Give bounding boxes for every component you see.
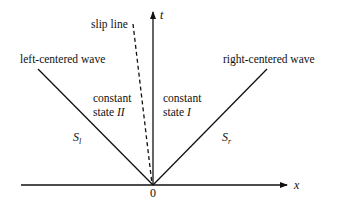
slip-line-label: slip line xyxy=(91,18,128,31)
S-l-label: Sl xyxy=(73,130,82,146)
left-wave-label: left-centered wave xyxy=(20,53,105,65)
state-I-line2: state I xyxy=(163,106,192,118)
state-I-line1: constant xyxy=(163,92,202,104)
S-r-label: Sr xyxy=(222,130,232,146)
left-wave-line xyxy=(38,69,153,185)
xt-diagram: t x 0 slip line left-centered wave right… xyxy=(0,0,340,208)
slip-line xyxy=(133,24,152,184)
t-axis-label: t xyxy=(160,8,164,22)
x-axis-label: x xyxy=(293,178,300,192)
state-II-line1: constant xyxy=(93,92,132,104)
origin-label: 0 xyxy=(150,186,156,200)
right-wave-label: right-centered wave xyxy=(223,53,315,66)
right-wave-line xyxy=(153,69,267,185)
state-II-line2: state II xyxy=(93,106,126,118)
